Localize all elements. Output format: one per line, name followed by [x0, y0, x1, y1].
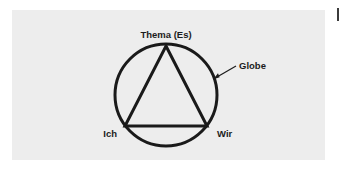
label-ich: Ich [103, 128, 117, 139]
page-edge-mark [337, 8, 339, 21]
tzi-diagram: Thema (Es) Ich Wir Globe [0, 0, 348, 172]
tzi-triangle [125, 46, 207, 126]
globe-callout-leader [213, 66, 236, 80]
globe-circle [115, 44, 217, 146]
label-thema-es: Thema (Es) [140, 29, 191, 40]
label-globe: Globe [239, 60, 266, 71]
label-wir: Wir [217, 128, 233, 139]
figure-page: Thema (Es) Ich Wir Globe [0, 0, 348, 172]
